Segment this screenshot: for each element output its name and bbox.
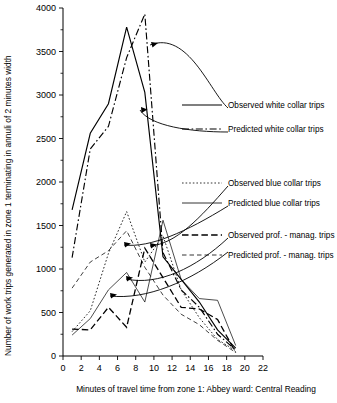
y-tick-label: 2500 — [36, 134, 56, 144]
x-tick-label: 10 — [149, 363, 159, 373]
y-tick-label: 3500 — [36, 47, 56, 57]
chart-figure: Number of work trips generated in zone 1… — [0, 0, 337, 403]
y-tick-label: 0 — [51, 351, 56, 361]
legend-label-pred-white: Predicted white collar trips — [228, 125, 324, 134]
x-tick-label: 20 — [240, 363, 250, 373]
y-tick-label: 4000 — [36, 3, 56, 13]
x-tick-label: 14 — [185, 363, 195, 373]
legend-label-obs-blue: Observed blue collar trips — [228, 179, 321, 188]
legend-label-obs-prof: Observed prof. - manag. trips — [228, 231, 334, 240]
x-tick-label: 6 — [115, 363, 120, 373]
x-tick-label: 8 — [133, 363, 138, 373]
y-tick-label: 3000 — [36, 90, 56, 100]
y-axis-title: Number of work trips generated in zone 1… — [3, 55, 13, 356]
y-tick-label: 2000 — [36, 177, 56, 187]
line-chart: Number of work trips generated in zone 1… — [0, 0, 337, 403]
x-axis-title: Minutes of travel time from zone 1: Abbe… — [76, 384, 316, 394]
y-tick-label: 1500 — [36, 221, 56, 231]
legend-label-pred-blue: Predicted blue collar trips — [228, 199, 320, 208]
legend-label-pred-prof: Predicted prof. - manag. trips — [228, 251, 334, 260]
y-tick-label: 1000 — [36, 264, 56, 274]
x-tick-label: 18 — [222, 363, 232, 373]
y-tick-label: 500 — [41, 308, 56, 318]
x-tick-label: 0 — [60, 363, 65, 373]
x-tick-label: 22 — [258, 363, 268, 373]
x-tick-label: 2 — [79, 363, 84, 373]
x-tick-label: 16 — [203, 363, 213, 373]
x-tick-label: 4 — [97, 363, 102, 373]
legend-label-obs-white: Observed white collar trips — [228, 101, 324, 110]
x-tick-label: 12 — [167, 363, 177, 373]
